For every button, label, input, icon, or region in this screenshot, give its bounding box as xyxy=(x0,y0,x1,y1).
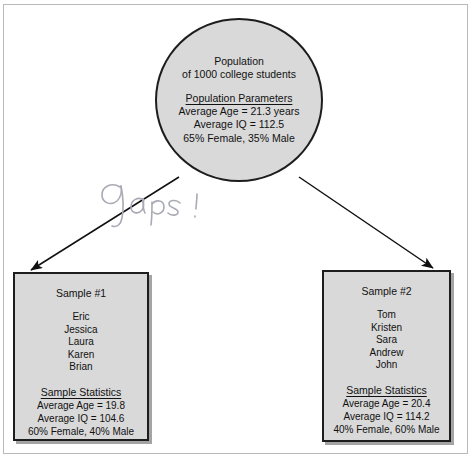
sample-1-title: Sample #1 xyxy=(15,286,147,300)
diagram-canvas: Population of 1000 college students Popu… xyxy=(0,0,473,460)
handwritten-annotation-gaps xyxy=(96,176,216,232)
sample-2-name-3: Sara xyxy=(324,334,449,347)
sample-2-title: Sample #2 xyxy=(324,284,449,298)
sample-1-stat-age: Average Age = 19.8 xyxy=(15,399,147,412)
sample-1-name-3: Laura xyxy=(15,336,147,349)
sample-2-name-5: John xyxy=(324,359,449,372)
sample-1-name-4: Karen xyxy=(15,349,147,362)
sample-2-name-4: Andrew xyxy=(324,347,449,360)
population-parameter-gender: 65% Female, 35% Male xyxy=(183,132,294,146)
sample-1-stat-gender: 60% Female, 40% Male xyxy=(15,425,147,438)
sample-box-2: Sample #2 Tom Kristen Sara Andrew John S… xyxy=(322,270,451,442)
sample-box-1: Sample #1 Eric Jessica Laura Karen Brian… xyxy=(13,272,149,441)
arrow-to-sample-1 xyxy=(31,177,179,270)
population-parameter-iq: Average IQ = 112.5 xyxy=(194,118,284,132)
spacer xyxy=(324,372,449,383)
sample-1-name-1: Eric xyxy=(15,311,147,324)
population-title-line-1: Population xyxy=(214,55,264,69)
spacer xyxy=(15,374,147,385)
sample-2-stats-heading: Sample Statistics xyxy=(324,383,449,397)
population-circle: Population of 1000 college students Popu… xyxy=(155,18,323,182)
population-title-line-2: of 1000 college students xyxy=(182,68,296,82)
sample-2-stat-gender: 40% Female, 60% Male xyxy=(324,423,449,436)
sample-1-stat-iq: Average IQ = 104.6 xyxy=(15,412,147,425)
sample-2-stat-age: Average Age = 20.4 xyxy=(324,397,449,410)
sample-1-name-5: Brian xyxy=(15,361,147,374)
sample-2-name-1: Tom xyxy=(324,309,449,322)
sample-1-name-2: Jessica xyxy=(15,324,147,337)
arrow-to-sample-2 xyxy=(299,177,433,268)
sample-1-stats-heading: Sample Statistics xyxy=(15,385,147,399)
sample-2-name-2: Kristen xyxy=(324,322,449,335)
sample-2-stat-iq: Average IQ = 114.2 xyxy=(324,410,449,423)
population-parameter-age: Average Age = 21.3 years xyxy=(179,105,300,119)
population-parameters-heading: Population Parameters xyxy=(186,91,293,105)
